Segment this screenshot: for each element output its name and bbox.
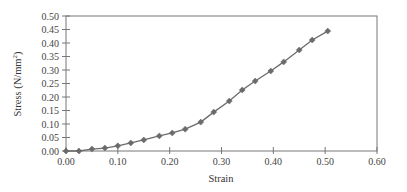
data-series <box>63 28 331 154</box>
y-tick-label: 0.25 <box>42 78 60 89</box>
x-tick-label: 0.30 <box>213 156 231 167</box>
plot-frame <box>66 16 377 151</box>
data-point-marker <box>115 143 121 149</box>
y-tick-label: 0.00 <box>42 146 60 157</box>
data-point-marker <box>141 137 147 143</box>
y-tick-label: 0.20 <box>42 92 60 103</box>
y-tick-label: 0.15 <box>42 105 60 116</box>
y-axis-title-end: ) <box>12 51 24 55</box>
x-axis-title: Strain <box>208 173 234 184</box>
y-tick-label: 0.30 <box>42 65 60 76</box>
x-tick-label: 0.40 <box>265 156 283 167</box>
y-tick-label: 0.45 <box>42 24 60 35</box>
data-point-marker <box>128 140 134 146</box>
y-tick-label: 0.50 <box>42 11 60 22</box>
x-tick-label: 0.60 <box>368 156 386 167</box>
y-axis-title: Stress (N/mm2) <box>11 51 24 117</box>
x-tick-label: 0.00 <box>57 156 75 167</box>
y-tick-label: 0.10 <box>42 119 60 130</box>
x-tick-label: 0.20 <box>161 156 179 167</box>
stress-strain-chart: 0.000.050.100.150.200.250.300.350.400.45… <box>0 0 407 192</box>
y-tick-label: 0.40 <box>42 38 60 49</box>
x-axis-ticks: 0.000.100.200.300.400.500.60 <box>57 147 386 167</box>
data-point-marker <box>325 28 331 34</box>
y-axis-title-main: Stress (N/mm <box>12 58 24 116</box>
y-tick-label: 0.35 <box>42 51 60 62</box>
y-tick-label: 0.05 <box>42 132 60 143</box>
data-point-marker <box>156 133 162 139</box>
x-tick-label: 0.10 <box>109 156 127 167</box>
x-tick-label: 0.50 <box>316 156 334 167</box>
data-point-marker <box>63 148 69 154</box>
data-point-marker <box>182 126 188 132</box>
data-point-marker <box>169 130 175 136</box>
data-point-marker <box>76 148 82 154</box>
series-line <box>66 31 328 151</box>
data-point-marker <box>102 145 108 151</box>
